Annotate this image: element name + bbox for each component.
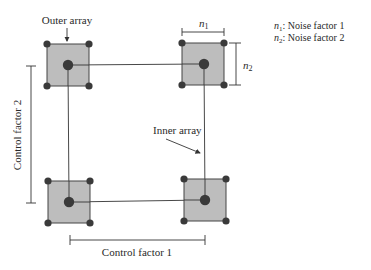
inner-array-label: Inner array xyxy=(153,124,202,136)
outer-array-top-right xyxy=(178,39,227,88)
n1-dimension xyxy=(182,28,224,36)
control-factor-1-label: Control factor 1 xyxy=(102,246,172,258)
outer-array-label: Outer array xyxy=(42,14,93,26)
n1-label: n1 xyxy=(199,17,209,31)
inner-array-arrow xyxy=(166,139,200,153)
outer-array-top-left xyxy=(43,40,92,89)
n2-dimension xyxy=(229,43,241,85)
n2-label: n2 xyxy=(243,59,253,73)
control-factor-2-dimension xyxy=(26,66,36,203)
outer-array-bottom-right xyxy=(180,175,229,224)
control-factor-2-label: Control factor 2 xyxy=(11,100,23,170)
crossed-array-diagram: Outer array Inner array n1 n2 Control fa… xyxy=(0,0,371,270)
control-factor-1-dimension xyxy=(70,235,205,245)
legend: n1: Noise factor 1 n2: Noise factor 2 xyxy=(274,20,344,45)
legend-item-n2: n2: Noise factor 2 xyxy=(274,32,344,45)
outer-array-bottom-left xyxy=(44,177,93,226)
